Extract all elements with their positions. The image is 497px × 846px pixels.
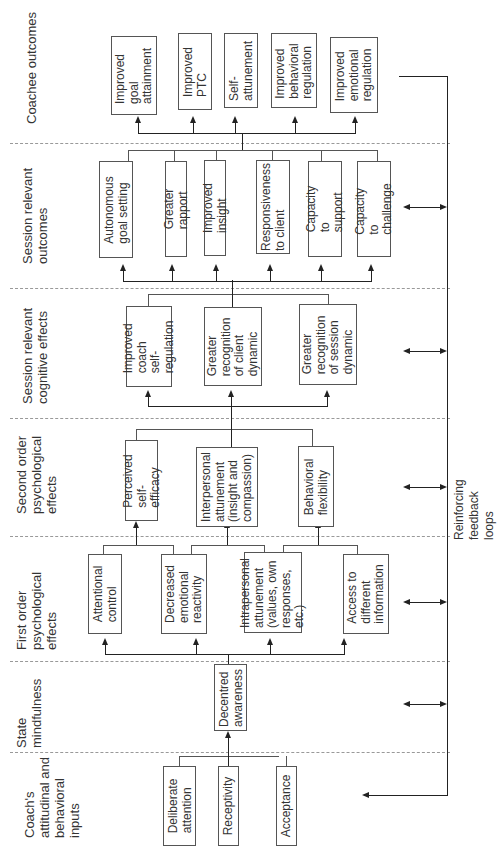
first-order-box-access-information: Access to different information <box>343 554 389 634</box>
divider <box>10 536 450 537</box>
arrow-icon <box>403 599 410 605</box>
arrow-icon <box>232 116 238 123</box>
arrow-icon <box>403 348 410 354</box>
arrow-icon <box>403 484 410 490</box>
connector <box>231 406 232 447</box>
connector <box>172 270 173 281</box>
connector <box>235 122 236 133</box>
arrow-icon <box>440 599 447 605</box>
session-outcome-box-capacity-support: Capacity to support <box>308 161 342 257</box>
connector <box>228 736 229 766</box>
connector <box>232 280 233 307</box>
feedback-loop-line <box>368 795 448 796</box>
input-box-receptivity: Receptivity <box>218 766 239 846</box>
coachee-outcome-box-self-attunement: Self- attunement <box>224 33 258 108</box>
stage-label-session-outcomes: Session relevant outcomes <box>20 168 50 264</box>
double-arrow <box>408 351 440 352</box>
feedback-loop-line <box>447 76 448 795</box>
first-order-box-attentional-control: Attentional control <box>88 554 122 634</box>
connector <box>355 122 356 133</box>
arrow-icon <box>341 638 347 645</box>
connector <box>318 526 319 545</box>
connector <box>103 545 104 554</box>
connector <box>138 133 356 134</box>
arrow-icon <box>440 701 447 707</box>
double-arrow <box>408 207 440 208</box>
arrow-icon <box>403 204 410 210</box>
session-outcome-box-responsiveness: Responsiveness to client <box>256 160 290 254</box>
cognitive-box-client-dynamic: Greater recognition of client dynamic <box>204 307 262 386</box>
arrow-icon <box>102 638 108 645</box>
arrow-icon <box>190 116 196 123</box>
divider <box>10 143 450 144</box>
connector <box>242 134 243 150</box>
arrow-icon <box>352 116 358 123</box>
arrow-icon <box>133 521 139 528</box>
stage-label-second-order: Second order psychological effects <box>14 436 59 514</box>
connector <box>136 429 137 440</box>
connector <box>272 150 273 160</box>
connector <box>123 281 372 282</box>
connector <box>105 654 345 655</box>
stage-label-coachee-outcomes: Coachee outcomes <box>24 12 39 124</box>
arrow-icon <box>228 390 234 397</box>
coachee-outcome-box-goal-attainment: Improved goal attainment <box>111 36 157 115</box>
stage-label-first-order: First order psychological effects <box>14 572 59 650</box>
double-arrow <box>408 487 440 488</box>
connector <box>179 756 180 766</box>
cognitive-box-session-dynamic: Greater recognition of session dynamic <box>299 304 357 385</box>
arrow-icon <box>440 204 447 210</box>
connector <box>283 545 357 546</box>
connector <box>328 294 329 304</box>
arrow-icon <box>324 390 330 397</box>
connector <box>357 545 358 554</box>
arrow-icon <box>403 701 410 707</box>
connector <box>216 270 217 281</box>
coachee-outcome-box-ptc: Improved PTC <box>178 33 212 110</box>
second-order-box-behavioral-flexibility: Behavioral flexibility <box>298 446 334 527</box>
coachee-outcome-box-behavioral-regulation: Improved behavioral regulation <box>271 33 317 108</box>
session-outcome-box-autonomous-goal-setting: Autonomous goal setting <box>99 161 133 258</box>
arrow-icon <box>169 264 175 271</box>
arrow-icon <box>135 116 141 123</box>
first-order-box-decreased-reactivity: Decreased emotional reactivity <box>161 554 207 634</box>
connector <box>128 150 129 161</box>
connector <box>103 545 173 546</box>
session-outcome-box-improved-insight: Improved insight <box>204 160 226 256</box>
connector <box>371 270 372 281</box>
stage-label-inputs: Coach's attitudinal and behavioral input… <box>22 757 82 838</box>
input-box-deliberate-attention: Deliberate attention <box>163 766 196 846</box>
connector <box>148 406 328 407</box>
arrow-icon <box>267 264 273 271</box>
state-box-decentred-awareness: Decentred awareness <box>214 664 247 731</box>
connector <box>128 150 377 151</box>
connector <box>123 270 124 281</box>
coachee-outcome-box-emotional-regulation: Improved emotional regulation <box>330 37 378 113</box>
connector <box>191 545 192 554</box>
divider <box>10 661 450 662</box>
arrow-icon <box>292 116 298 123</box>
connector <box>136 526 137 545</box>
connector <box>138 122 139 133</box>
arrow-icon <box>267 638 273 645</box>
connector <box>173 545 174 554</box>
stage-label-cognitive: Session relevant cognitive effects <box>20 308 50 404</box>
feedback-loop-line <box>399 76 448 77</box>
connector <box>136 429 312 430</box>
arrow-icon <box>213 264 219 271</box>
connector <box>148 294 149 306</box>
feedback-loops-label: Reinforcing feedback loops <box>452 479 497 540</box>
session-outcome-box-capacity-challenge: Capacity to challenge <box>357 161 391 257</box>
divider <box>10 288 450 289</box>
connector <box>193 122 194 133</box>
divider <box>10 418 450 419</box>
arrow-icon <box>318 264 324 271</box>
connector <box>227 526 228 545</box>
divider <box>10 752 450 753</box>
arrow-icon <box>440 484 447 490</box>
connector <box>312 429 313 446</box>
arrow-icon <box>440 348 447 354</box>
second-order-box-self-efficacy: Perceived self-efficacy <box>125 440 158 521</box>
connector <box>228 654 229 664</box>
second-order-box-interpersonal-attunement: Interpersonal attunement (insight and co… <box>196 447 258 527</box>
